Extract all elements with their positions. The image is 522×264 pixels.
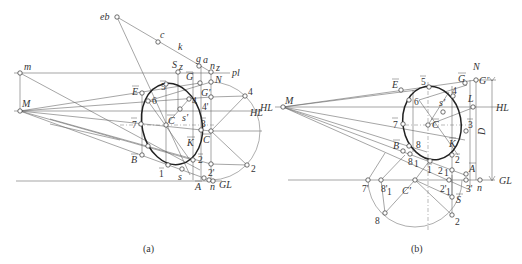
perspective-construction-figure: eb c k g a n z pl m S z G N G' E 5 6 4 4… (0, 0, 522, 264)
label-8-1-b: 8 (408, 157, 413, 167)
label-a: a (203, 54, 208, 65)
label-c: c (160, 29, 165, 40)
label-n-b: n (477, 182, 482, 193)
label-k-bar-b: K (448, 138, 457, 149)
panel-b: HL M HL N G' G E 5 4 6 s' L 7 C 3 D B 8 … (259, 61, 512, 255)
label-D: D (476, 127, 487, 136)
label-8-low-b: 8 (375, 216, 380, 226)
label-s-prime-b: s' (439, 97, 446, 108)
label-4-bar: 4 (192, 96, 197, 106)
label-s-z-sub: z (178, 61, 183, 72)
label-n-z: n (210, 60, 215, 71)
label-C: C (203, 134, 210, 145)
label-n: n (210, 181, 215, 192)
label-8-b: 8 (416, 140, 421, 150)
label-a-bar-b: A (468, 163, 476, 174)
label-1-bar: 1 (159, 169, 164, 179)
label-7-prime-b: 7' (362, 184, 369, 194)
panel-a: eb c k g a n z pl m S z G N G' E 5 6 4 4… (14, 11, 263, 255)
label-L: L (467, 93, 474, 104)
label-2-prime: 2' (208, 168, 215, 178)
label-s: s (178, 171, 182, 182)
label-2-1-b: 2 (438, 166, 443, 176)
label-7-bar-b: 7 (393, 120, 398, 130)
label-g-bar-b: G (458, 73, 465, 84)
label-M: M (21, 98, 31, 109)
label-3-bar: 3 (201, 119, 206, 129)
label-k-bar: K (186, 137, 195, 148)
label-b-bar: B (131, 154, 137, 165)
label-eb: eb (100, 11, 109, 22)
label-e-bar-b: E (391, 79, 398, 90)
label-c-prime-b: C' (402, 185, 412, 196)
label-5-bar-b: 5 (421, 77, 426, 87)
label-8-1-sub-b: 1 (414, 159, 419, 169)
label-g: g (196, 53, 201, 64)
panel-b-labels: HL M HL N G' G E 5 4 6 s' L 7 C 3 D B 8 … (259, 61, 512, 227)
label-N-b: N (472, 61, 481, 72)
label-2-low-b: 2 (455, 217, 460, 227)
label-2: 2 (251, 164, 256, 174)
label-7-bar: 7 (132, 120, 137, 130)
label-2-1-sub-b: 1 (444, 168, 449, 178)
label-1-bar-b: 1 (427, 165, 432, 175)
label-N: N (214, 74, 223, 85)
label-c-bar: C (168, 115, 175, 126)
label-8-1-prime-sub-b: 1 (387, 187, 392, 197)
label-pl: pl (231, 67, 240, 78)
label-4: 4 (248, 87, 253, 97)
label-n-z-sub: z (215, 62, 220, 73)
label-e-bar: E (131, 86, 138, 97)
label-a-bar: A (194, 181, 202, 192)
label-2-1-prime-sub-b: 1 (446, 187, 451, 197)
label-5-bar: 5 (161, 82, 166, 92)
label-gl: GL (219, 179, 232, 190)
label-3-prime-b: 3' (466, 184, 473, 194)
label-4-prime: 4' (202, 102, 209, 112)
caption-b: (b) (411, 243, 423, 255)
label-c-bar-b: C (432, 119, 439, 130)
label-6: 6 (152, 96, 157, 106)
label-6-b: 6 (414, 97, 419, 107)
label-hl-left: HL (259, 102, 273, 113)
label-g-prime-b: G' (479, 75, 489, 86)
label-gl-b: GL (499, 175, 512, 186)
label-g-prime: G' (201, 87, 211, 98)
label-g-bar: G (186, 71, 193, 82)
label-s-prime: s' (182, 112, 189, 123)
label-s-bar-b: S (456, 194, 461, 205)
label-s-z: S (172, 59, 177, 70)
label-4-bar-b: 4 (452, 86, 457, 96)
label-hl-right: HL (495, 102, 509, 113)
caption-a: (a) (143, 243, 154, 255)
label-2-bar-b: 2 (455, 155, 460, 165)
label-m: m (24, 61, 31, 72)
panel-a-construction-lines (14, 17, 262, 181)
label-M-b: M (284, 95, 294, 106)
label-3-bar-b: 3 (468, 120, 473, 130)
label-k: k (178, 41, 183, 52)
label-2-bar: 2 (198, 155, 203, 165)
label-b-bar-b: B (393, 140, 399, 151)
